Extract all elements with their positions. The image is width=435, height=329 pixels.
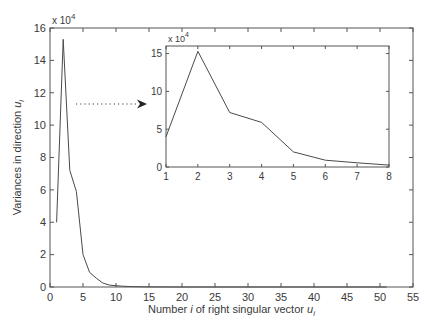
x-tick-label: 4: [259, 171, 265, 182]
x-axis-label: Number i of right singular vector ui: [148, 303, 315, 318]
x-tick-label: 25: [209, 291, 221, 303]
y-tick-label: 16: [34, 22, 46, 34]
y-tick-label: 10: [34, 119, 46, 131]
y-tick-label: 6: [40, 184, 46, 196]
x-tick-label: 3: [227, 171, 233, 182]
y-tick-label: 0: [40, 281, 46, 293]
y-tick-label: 2: [40, 248, 46, 260]
y-tick-label: 15: [151, 48, 163, 59]
y-tick-label: 5: [156, 124, 162, 135]
x-tick-label: 1: [163, 171, 169, 182]
x-tick-label: 35: [275, 291, 287, 303]
x-tick-label: 10: [110, 291, 122, 303]
y-multiplier-label: x 104: [52, 12, 76, 26]
y-tick-label: 0: [156, 162, 162, 173]
y-tick-label: 14: [34, 54, 46, 66]
y-tick-label: 12: [34, 87, 46, 99]
y-tick-label: 4: [40, 216, 46, 228]
x-tick-label: 50: [374, 291, 386, 303]
axes-box: [166, 46, 389, 167]
y-axis-label: Variances in direction ui: [11, 100, 26, 216]
inset-plot: 12345678051015x 104: [151, 31, 392, 182]
x-tick-label: 30: [242, 291, 254, 303]
x-tick-label: 6: [323, 171, 329, 182]
y-tick-label: 8: [40, 151, 46, 163]
x-tick-label: 5: [80, 291, 86, 303]
x-tick-label: 7: [354, 171, 360, 182]
x-tick-label: 0: [47, 291, 53, 303]
x-tick-label: 5: [291, 171, 297, 182]
x-tick-label: 15: [143, 291, 155, 303]
x-tick-label: 45: [341, 291, 353, 303]
x-tick-label: 8: [386, 171, 392, 182]
x-tick-label: 40: [308, 291, 320, 303]
x-tick-label: 20: [176, 291, 188, 303]
x-tick-label: 2: [195, 171, 201, 182]
chart-canvas: 05101520253035404550550246810121416x 104…: [0, 0, 435, 329]
x-tick-label: 55: [407, 291, 419, 303]
y-tick-label: 10: [151, 86, 163, 97]
